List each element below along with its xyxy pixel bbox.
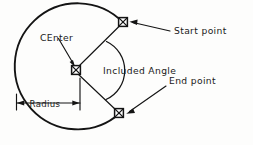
start-point-marker <box>119 18 128 27</box>
start-point-leader-line <box>133 23 170 32</box>
center-marker <box>72 66 81 75</box>
center-label: CEnter <box>40 32 73 43</box>
end-point-label: End point <box>169 75 216 86</box>
arc-diagram-canvas: CEnter Start point End point Included An… <box>0 0 253 145</box>
included-angle-label: Included Angle <box>103 65 176 76</box>
end-point-leader-line <box>130 86 167 112</box>
radius-dimension-arrow-left <box>17 100 24 105</box>
radius-dimension-arrow-right <box>72 100 79 105</box>
end-point-marker <box>115 109 124 118</box>
radius-label: Radius <box>30 99 61 109</box>
start-point-leader-arrow <box>130 20 138 25</box>
arc-diagram-svg: CEnter Start point End point Included An… <box>0 0 253 145</box>
start-point-label: Start point <box>174 25 227 36</box>
radius-line-to-end-point <box>78 74 117 111</box>
